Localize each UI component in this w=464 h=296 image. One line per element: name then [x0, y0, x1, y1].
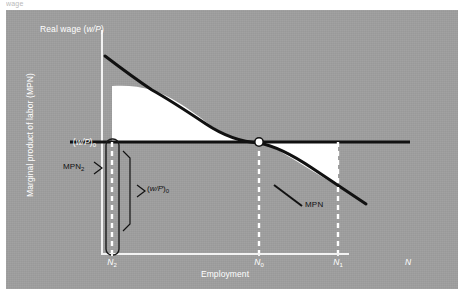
- mpn-leader-line: [274, 185, 302, 206]
- x-tick-label-n2-sub: 2: [113, 262, 116, 268]
- wage-bracket-annotation-math: w/P: [150, 184, 163, 193]
- shaded-region-loss: [259, 142, 338, 186]
- secondary-y-axis-title-suffix: ): [101, 24, 104, 34]
- x-tick-label-n0: N0: [254, 257, 263, 267]
- wage-bracket-annotation: (w/P)0: [147, 184, 169, 193]
- equilibrium-point-marker: [255, 138, 263, 146]
- y-tick-label-wage: (w/P)0: [28, 137, 96, 147]
- y-axis-title: Marginal product of labor (MPN): [25, 45, 35, 225]
- chart-panel: Marginal product of labor (MPN) Real wag…: [6, 10, 458, 289]
- x-tick-label-n2: N2: [107, 257, 116, 267]
- x-tick-label-n1: N1: [333, 257, 342, 267]
- mpn-curve-label: MPN: [305, 200, 323, 209]
- y-tick-label-math: w/P: [76, 137, 90, 147]
- top-caption: wage: [6, 0, 24, 8]
- wage-bracket-annotation-sub: 0: [166, 188, 169, 194]
- wage-bracket-stem: [123, 151, 130, 231]
- mpn2-bracket: [94, 162, 102, 174]
- secondary-y-axis-title-prefix: Real wage (: [40, 24, 86, 34]
- x-axis-symbol-label: N: [405, 257, 411, 267]
- plot-area: Marginal product of labor (MPN) Real wag…: [6, 10, 458, 289]
- x-tick-label-n0-sub: 0: [260, 262, 263, 268]
- x-tick-label-n1-sub: 1: [339, 262, 342, 268]
- mpn2-annotation: MPN2: [63, 162, 85, 171]
- y-tick-label-sub: 0: [93, 142, 96, 148]
- wage-bracket: [137, 185, 145, 197]
- figure-root: wage: [0, 0, 464, 296]
- shaded-region-surplus: [112, 86, 259, 142]
- secondary-y-axis-title-math: w/P: [86, 24, 100, 34]
- secondary-y-axis-title: Real wage (w/P): [40, 24, 104, 34]
- mpn2-annotation-text: MPN: [63, 162, 81, 171]
- x-axis-title: Employment: [101, 269, 349, 279]
- chart-drawing-layer: [6, 10, 458, 289]
- mpn2-annotation-sub: 2: [81, 166, 84, 172]
